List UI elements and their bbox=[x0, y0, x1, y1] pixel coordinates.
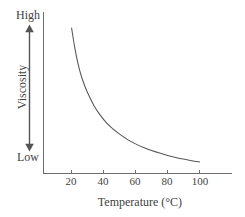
viscosity-curve bbox=[72, 28, 200, 162]
x-axis-ticks bbox=[72, 170, 200, 174]
x-axis-title: Temperature (°C) bbox=[45, 196, 235, 208]
arrow-head-up-icon bbox=[25, 25, 34, 33]
y-axis-low-label: Low bbox=[0, 151, 56, 163]
y-axis-high-label: High bbox=[0, 9, 56, 21]
x-tick-label-100: 100 bbox=[180, 176, 220, 187]
viscosity-temperature-chart: High Low Viscosity 20 40 60 80 100 Tempe… bbox=[0, 0, 245, 217]
y-axis-title: Viscosity bbox=[16, 47, 28, 127]
